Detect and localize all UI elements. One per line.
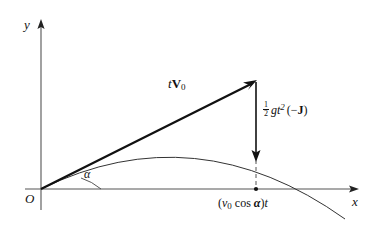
- one-half-fraction: 1 2: [263, 101, 269, 119]
- y-axis: [37, 19, 44, 210]
- horizontal-range-label: (v0 cos α)t: [218, 197, 268, 211]
- fraction-numerator: 1: [263, 101, 269, 109]
- gravity-drop-exponent: 2: [280, 102, 285, 112]
- range-v-subscript: 0: [227, 201, 232, 211]
- velocity-label-symbol: V: [172, 76, 181, 91]
- x-axis: [25, 185, 359, 192]
- velocity-vector-arrowhead-icon: [243, 80, 257, 90]
- unit-vector-j: J: [298, 103, 304, 117]
- gravity-drop-body: gt2: [271, 103, 285, 116]
- gravity-drop-vector: [252, 82, 261, 162]
- base-point-marker: [254, 187, 258, 191]
- velocity-vector: [41, 80, 257, 189]
- projectile-diagram: y x O α tV0 1 2 gt2 (−J) (v0 cos α)t: [0, 0, 382, 229]
- range-t: t: [264, 196, 267, 210]
- velocity-label-subscript: 0: [181, 82, 186, 92]
- velocity-vector-label: tV0: [168, 77, 186, 92]
- gravity-drop-label: 1 2 gt2 (−J): [263, 101, 308, 119]
- gravity-drop-gt: gt: [271, 103, 280, 117]
- angle-alpha-label: α: [84, 168, 90, 180]
- origin-label: O: [25, 192, 34, 205]
- fraction-denominator: 2: [263, 109, 269, 118]
- diagram-canvas: [0, 0, 382, 229]
- velocity-vector-line: [41, 84, 251, 189]
- range-cos: cos: [235, 196, 251, 210]
- y-axis-label: y: [24, 18, 30, 31]
- gravity-drop-paren: (−J): [287, 104, 308, 116]
- x-axis-label: x: [352, 195, 358, 208]
